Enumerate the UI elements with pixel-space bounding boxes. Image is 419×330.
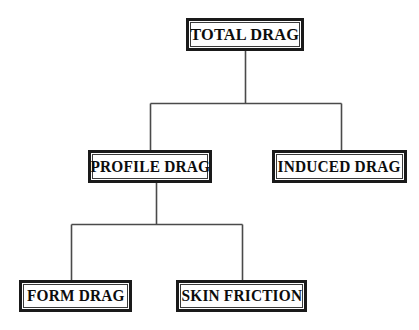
diagram-canvas: TOTAL DRAG PROFILE DRAG INDUCED DRAG FOR… (0, 0, 419, 330)
node-total-drag[interactable]: TOTAL DRAG (186, 18, 304, 51)
node-induced-drag-frame: INDUCED DRAG (276, 154, 403, 179)
node-induced-drag[interactable]: INDUCED DRAG (272, 150, 407, 183)
node-skin-friction-label: SKIN FRICTION (181, 288, 302, 304)
node-profile-drag[interactable]: PROFILE DRAG (88, 150, 212, 183)
edge-profile-to-children (72, 183, 243, 281)
node-total-drag-frame: TOTAL DRAG (190, 22, 300, 47)
node-total-drag-label: TOTAL DRAG (191, 26, 300, 43)
node-profile-drag-label: PROFILE DRAG (90, 159, 210, 175)
node-form-drag-frame: FORM DRAG (23, 284, 128, 308)
node-form-drag-label: FORM DRAG (27, 288, 125, 304)
node-form-drag[interactable]: FORM DRAG (19, 280, 132, 312)
edge-total-to-children (151, 51, 342, 150)
node-induced-drag-label: INDUCED DRAG (278, 159, 401, 175)
node-skin-friction[interactable]: SKIN FRICTION (176, 280, 307, 312)
node-skin-friction-frame: SKIN FRICTION (180, 284, 303, 308)
node-profile-drag-frame: PROFILE DRAG (92, 154, 208, 179)
